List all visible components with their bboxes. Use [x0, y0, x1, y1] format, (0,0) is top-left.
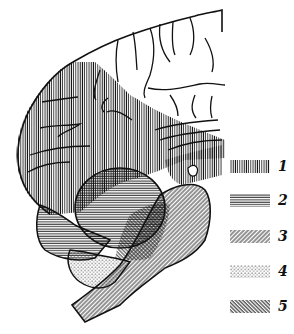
legend-number: 1 [278, 158, 288, 174]
swatch-horizontal-lines [230, 194, 270, 207]
swatch-vertical-lines [230, 160, 270, 173]
legend-item-3: 3 [230, 230, 294, 244]
cortex-outline [73, 10, 222, 62]
legend-item-2: 2 [230, 194, 294, 208]
legend-item-4: 4 [230, 265, 294, 279]
legend-number: 5 [278, 298, 288, 314]
small-structure [188, 166, 197, 177]
swatch-dots [230, 265, 270, 278]
swatch-diagonal-lines [230, 230, 270, 243]
legend-number: 4 [278, 263, 288, 279]
legend-number: 3 [278, 228, 288, 244]
legend-number: 2 [278, 192, 288, 208]
legend-item-5: 5 [230, 300, 294, 314]
legend-item-1: 1 [230, 160, 294, 174]
swatch-diagonal-lines-backward [230, 300, 270, 313]
